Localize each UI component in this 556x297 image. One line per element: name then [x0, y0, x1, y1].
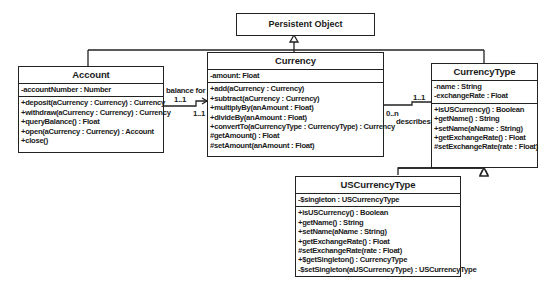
uscurrencytype-class-name: USCurrencyType [296, 177, 460, 194]
account-class-name: Account [19, 67, 163, 84]
operation: +add(aCurrency : Currency) [210, 84, 381, 93]
currencytype-class: CurrencyType -name : String -exchangeRat… [431, 63, 538, 168]
persistent-object-class: Persistent Object [236, 13, 375, 36]
balance-association-name: balance for [166, 86, 205, 95]
describes-association-name: describes [396, 117, 431, 126]
operation: +getName() : String [298, 218, 458, 227]
account-attributes: -accountNumber : Number [19, 84, 163, 96]
currencytype-class-name: CurrencyType [432, 64, 537, 81]
operation: +convertTo(aCurrencyType : CurrencyType)… [210, 122, 381, 131]
operation: +setName(aName : String) [298, 227, 458, 236]
currency-operations: +add(aCurrency : Currency) +subtract(aCu… [208, 82, 383, 152]
operation: #setExchangeRate(rate : Float) [434, 142, 535, 151]
operation: +open(aCurrency : Currency) : Account [21, 127, 161, 136]
operation: +queryBalance() : Float [21, 117, 161, 126]
operation: #setExchangeRate(rate : Float) [298, 246, 458, 255]
operation: +setName(aName : String) [434, 124, 535, 133]
operation: +close() [21, 136, 161, 145]
operation: +$getSingleton() : CurrencyType [298, 255, 458, 264]
currency-attributes: -amount: Float [208, 70, 383, 82]
uscurrencytype-class: USCurrencyType -$singleton : USCurrencyT… [295, 176, 461, 277]
attribute: -name : String [434, 82, 535, 91]
operation: +multiplyBy(anAmount : Float) [210, 103, 381, 112]
operation: +getExchangeRate() : Float [298, 237, 458, 246]
operation: -$setSingleton(aUSCurrencyType) : USCurr… [298, 265, 458, 274]
currency-class-name: Currency [208, 53, 383, 70]
balance-target-multiplicity: 1..1 [193, 109, 205, 118]
operation: +isUSCurrency() : Boolean [298, 208, 458, 217]
generalization-triangle-icon [480, 168, 488, 176]
operation: +getExchangeRate() : Float [434, 133, 535, 142]
describes-target-multiplicity: 1..1 [413, 93, 425, 102]
attribute: -exchangeRate : Float [434, 91, 535, 100]
attribute: -$singleton : USCurrencyType [298, 195, 458, 204]
uscurrencytype-operations: +isUSCurrency() : Boolean +getName() : S… [296, 206, 460, 276]
balance-source-multiplicity: 1..1 [174, 95, 186, 104]
operation: #setAmount(anAmount : Float) [210, 141, 381, 150]
account-operations: +deposit(aCurrency : Currency) : Currenc… [19, 96, 163, 147]
operation: +deposit(aCurrency : Currency) : Currenc… [21, 98, 161, 107]
currency-class: Currency -amount: Float +add(aCurrency :… [207, 52, 384, 157]
operation: +isUSCurrency() : Boolean [434, 105, 535, 114]
currencytype-operations: +isUSCurrency() : Boolean +getName() : S… [432, 103, 537, 154]
operation: +withdraw(aCurrency : Currency) : Curren… [21, 108, 161, 117]
operation: +divideBy(anAmount : Float) [210, 113, 381, 122]
account-class: Account -accountNumber : Number +deposit… [18, 66, 164, 153]
attribute: -amount: Float [210, 71, 381, 80]
operation: +subtract(aCurrency : Currency) [210, 94, 381, 103]
currencytype-attributes: -name : String -exchangeRate : Float [432, 81, 537, 103]
persistent-object-title: Persistent Object [268, 19, 342, 29]
operation: #getAmount() : Float [210, 131, 381, 140]
operation: +getName() : String [434, 114, 535, 123]
attribute: -accountNumber : Number [21, 85, 161, 94]
uscurrencytype-attributes: -$singleton : USCurrencyType [296, 194, 460, 206]
